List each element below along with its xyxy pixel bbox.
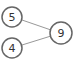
connector-top (22, 20, 51, 30)
connector-bottom (22, 36, 51, 45)
whole-node: 9 (50, 22, 72, 44)
number-bond-diagram: 5 4 9 (0, 0, 75, 65)
part-node-bottom: 4 (2, 38, 22, 58)
part-value-top: 5 (9, 11, 16, 24)
whole-value: 9 (58, 27, 65, 40)
part-value-bottom: 4 (9, 42, 16, 55)
part-node-top: 5 (2, 7, 22, 27)
